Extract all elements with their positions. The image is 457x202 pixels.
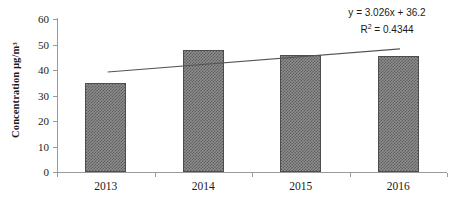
x-axis-tick-label: 2015 [256, 180, 346, 192]
trendline-segment [108, 49, 400, 72]
x-axis-tick-label: 2014 [158, 180, 248, 192]
bar-chart-figure: Concentration µg/m3 0102030405060 201320… [0, 0, 457, 202]
bar-2015 [280, 55, 321, 172]
y-axis-tick [53, 19, 57, 20]
y-axis-tick-label: 60 [9, 13, 49, 25]
y-axis-line [57, 18, 58, 173]
r-value: = 0.4344 [372, 24, 414, 35]
bar-2014 [183, 50, 224, 172]
x-axis-tick [155, 173, 156, 177]
bar-2013 [85, 83, 126, 172]
y-axis-tick [53, 96, 57, 97]
x-axis-tick-label: 2013 [61, 180, 151, 192]
y-axis-tick-label: 10 [9, 141, 49, 153]
y-axis-tick-label: 20 [9, 115, 49, 127]
y-axis-tick-label: 50 [9, 39, 49, 51]
x-axis-tick [350, 173, 351, 177]
bar-2016 [378, 56, 419, 172]
y-axis-tick-label: 0 [9, 166, 49, 178]
y-axis-tick [53, 147, 57, 148]
x-axis-tick [252, 173, 253, 177]
x-axis-tick-label: 2016 [353, 180, 443, 192]
r-symbol: R [360, 24, 367, 35]
trendline-equation-text: y = 3.026x + 36.2 [323, 6, 451, 20]
y-axis-tick-label: 40 [9, 64, 49, 76]
trendline-equation-box: y = 3.026x + 36.2 R2 = 0.4344 [323, 6, 451, 37]
y-axis-tick-label: 30 [9, 90, 49, 102]
y-axis-tick [53, 45, 57, 46]
y-axis-tick [53, 70, 57, 71]
x-axis-tick [447, 173, 448, 177]
trendline-r-squared-text: R2 = 0.4344 [323, 20, 451, 37]
y-axis-tick [53, 121, 57, 122]
x-axis-tick [57, 173, 58, 177]
